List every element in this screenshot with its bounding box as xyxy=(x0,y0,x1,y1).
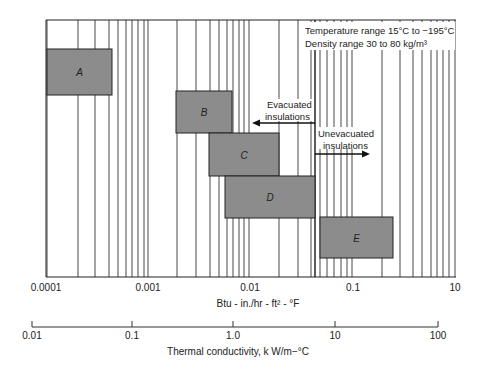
xtick-1: 0.001 xyxy=(135,282,160,293)
evacuated-label-2: insulations xyxy=(265,111,310,122)
range-box-label: A xyxy=(75,67,83,78)
evacuated-label: Evacuated xyxy=(267,99,312,110)
xtick-2: 0.01 xyxy=(240,282,260,293)
unevacuated-label-2: insulations xyxy=(323,140,368,151)
x-axis-label: Btu - in./hr - ft² - °F xyxy=(217,298,300,309)
si-tick-2: 1.0 xyxy=(226,330,240,341)
density-note: Density range 30 to 80 kg/m³ xyxy=(305,38,427,49)
si-axis-ticks xyxy=(32,321,438,327)
xtick-4: 10 xyxy=(449,282,461,293)
si-tick-3: 10 xyxy=(329,330,341,341)
arrow-right-icon xyxy=(362,151,370,158)
range-box-label: E xyxy=(353,233,360,244)
si-axis-label: Thermal conductivity, k W/m−°C xyxy=(167,346,309,357)
thermal-conductivity-chart: ABCDE Temperature range 15°C to −195°C D… xyxy=(0,0,483,371)
unevacuated-label: Unevacuated xyxy=(318,128,374,139)
range-box-label: C xyxy=(240,150,248,161)
xtick-0: 0.0001 xyxy=(31,282,62,293)
xtick-3: 0.1 xyxy=(346,282,360,293)
si-tick-0: 0.01 xyxy=(22,330,42,341)
range-box-label: D xyxy=(266,192,273,203)
si-tick-1: 0.1 xyxy=(125,330,139,341)
si-tick-4: 100 xyxy=(430,330,447,341)
arrow-left-icon xyxy=(252,120,260,127)
range-box-label: B xyxy=(201,107,208,118)
temperature-note: Temperature range 15°C to −195°C xyxy=(305,25,455,36)
